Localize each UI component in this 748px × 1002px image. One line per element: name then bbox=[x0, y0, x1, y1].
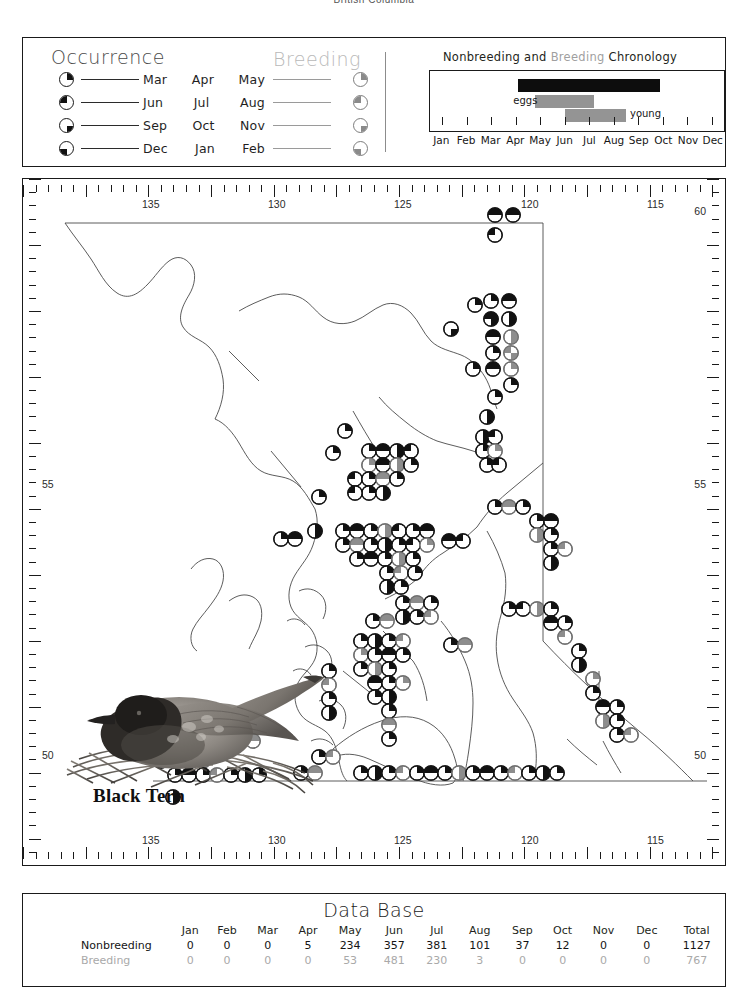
table-column-header: Apr bbox=[289, 923, 327, 938]
occurrence-symbol bbox=[410, 596, 424, 610]
table-column-header: Aug bbox=[458, 923, 501, 938]
chronology-month: Jun bbox=[552, 134, 577, 146]
occurrence-symbol bbox=[368, 766, 382, 780]
occurrence-symbol bbox=[382, 766, 396, 780]
table-column-header: May bbox=[327, 923, 373, 938]
occurrence-symbol bbox=[488, 208, 502, 222]
occurrence-symbol bbox=[382, 634, 396, 648]
occurrence-symbol bbox=[504, 330, 518, 344]
occurrence-symbol bbox=[424, 766, 438, 780]
occurrence-symbol bbox=[376, 458, 390, 472]
table-cell: 1127 bbox=[668, 938, 725, 953]
occurrence-symbol bbox=[424, 610, 438, 624]
legend-divider bbox=[385, 52, 386, 152]
occurrence-symbol bbox=[410, 610, 424, 624]
occurrence-symbol bbox=[420, 524, 434, 538]
occurrence-symbol bbox=[522, 766, 536, 780]
chronology-title-chronology: Chronology bbox=[609, 50, 678, 64]
map-canvas[interactable] bbox=[43, 201, 707, 845]
legend-connector-line bbox=[273, 102, 331, 103]
map-ruler-left bbox=[29, 179, 41, 865]
occurrence-symbol bbox=[350, 538, 364, 552]
table-cell: 0 bbox=[289, 953, 327, 968]
occurrence-symbol bbox=[382, 648, 396, 662]
chronology-month: Apr bbox=[503, 134, 528, 146]
occurrence-symbol bbox=[354, 662, 368, 676]
table-column-header: Oct bbox=[543, 923, 581, 938]
table-row-label: Breeding bbox=[23, 953, 173, 968]
occurrence-symbol bbox=[378, 538, 392, 552]
legend-row: Sep Oct Nov bbox=[23, 114, 381, 137]
table-column-header: Jan bbox=[173, 923, 207, 938]
occurrence-symbol bbox=[364, 538, 378, 552]
occurrence-symbol bbox=[442, 534, 456, 548]
occurrence-symbol bbox=[610, 714, 624, 728]
occurrence-symbol bbox=[350, 524, 364, 538]
occurrence-symbol bbox=[456, 534, 470, 548]
occurrence-symbol bbox=[504, 378, 518, 392]
legend-month: Jul bbox=[194, 95, 210, 110]
occurrence-symbol bbox=[486, 346, 500, 360]
occurrence-symbol bbox=[530, 514, 544, 528]
occurrence-symbol bbox=[382, 690, 396, 704]
table-column-header: Total bbox=[668, 923, 725, 938]
table-column-header bbox=[23, 923, 173, 938]
occurrence-symbol bbox=[544, 542, 558, 556]
table-header-row: JanFebMarAprMayJunJulAugSepOctNovDecTota… bbox=[23, 923, 725, 938]
occurrence-symbol bbox=[544, 616, 558, 630]
legend-month: May bbox=[239, 72, 265, 87]
occurrence-symbol bbox=[392, 538, 406, 552]
table-cell: 767 bbox=[668, 953, 725, 968]
occurrence-symbol bbox=[488, 430, 502, 444]
occurrence-symbol bbox=[544, 528, 558, 542]
table-cell: 37 bbox=[501, 938, 543, 953]
occurrence-symbol bbox=[516, 602, 530, 616]
chronology-title-nonbreeding: Nonbreeding bbox=[443, 50, 520, 64]
chronology-bar-eggs bbox=[535, 95, 594, 108]
legend-panel: Occurrence Breeding Mar Apr May Jun bbox=[22, 37, 726, 167]
table-column-header: Sep bbox=[501, 923, 543, 938]
table-cell: 381 bbox=[416, 938, 458, 953]
chronology-bar-nonbreeding bbox=[518, 79, 660, 92]
occurrence-symbol bbox=[322, 706, 336, 720]
table-cell: 234 bbox=[327, 938, 373, 953]
occurrence-symbol bbox=[392, 524, 406, 538]
occurrence-symbol bbox=[382, 662, 396, 676]
table-cell: 0 bbox=[173, 953, 207, 968]
occurrence-symbol bbox=[368, 690, 382, 704]
occurrence-symbol bbox=[488, 228, 502, 242]
chronology-ticks bbox=[430, 117, 724, 125]
occurrence-symbol bbox=[396, 610, 410, 624]
occurrence-symbol bbox=[502, 602, 516, 616]
occurrence-symbol bbox=[610, 728, 624, 742]
occurrence-symbol bbox=[596, 714, 610, 728]
occurrence-symbol bbox=[558, 542, 572, 556]
pie-bottom-right-icon bbox=[59, 118, 74, 133]
occurrence-symbol bbox=[396, 766, 410, 780]
table-body: Nonbreeding00052343573811013712001127Bre… bbox=[23, 938, 725, 968]
legend-month: Dec bbox=[143, 141, 168, 156]
occurrence-symbol bbox=[362, 486, 376, 500]
occurrence-symbol bbox=[376, 486, 390, 500]
table-cell: 3 bbox=[458, 953, 501, 968]
legend-months: Sep Oct Nov bbox=[143, 118, 265, 133]
database-panel: Data Base JanFebMarAprMayJunJulAugSepOct… bbox=[22, 893, 726, 987]
occurrence-symbol bbox=[348, 486, 362, 500]
legend-month: Aug bbox=[240, 95, 265, 110]
table-cell: 0 bbox=[582, 953, 625, 968]
occurrence-symbol bbox=[484, 312, 498, 326]
occurrence-symbol bbox=[288, 532, 302, 546]
occurrence-symbol bbox=[480, 766, 494, 780]
occurrence-symbol bbox=[390, 472, 404, 486]
species-name: Black Tern bbox=[93, 785, 185, 807]
occurrence-symbol bbox=[390, 444, 404, 458]
table-cell: 0 bbox=[173, 938, 207, 953]
table-cell: 0 bbox=[247, 953, 289, 968]
occurrence-symbol bbox=[504, 346, 518, 360]
eggs-label: eggs bbox=[513, 95, 537, 106]
occurrence-symbol bbox=[502, 294, 516, 308]
legend-rows: Mar Apr May Jun Jul Aug bbox=[23, 68, 381, 160]
chronology-month: Jan bbox=[429, 134, 454, 146]
legend-month: Oct bbox=[192, 118, 214, 133]
occurrence-symbol bbox=[274, 532, 288, 546]
